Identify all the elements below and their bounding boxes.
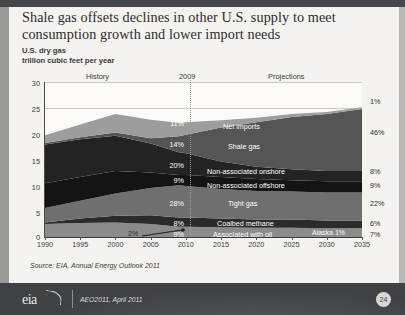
y-tick-10: 10 (18, 183, 40, 192)
x-tick-label-2035: 2035 (345, 240, 379, 249)
share-2009-non-associated-onshore: 20% (158, 161, 184, 170)
footer-separator (72, 290, 73, 308)
share-2035-non-associated-offshore: 9% (370, 181, 396, 190)
series-label-shale-gas: Shale gas (228, 142, 260, 151)
scan-right-edge (399, 7, 405, 283)
series-label-tight-gas: Tight gas (228, 199, 257, 208)
x-tick-label-2015: 2015 (204, 240, 238, 249)
projections-region-label: Projections (268, 72, 305, 81)
share-2035-associated-with-oil: 7% (370, 230, 396, 239)
stacked-area-svg (45, 82, 362, 237)
scan-top-edge (0, 0, 405, 7)
eia-logo-text: eia (22, 292, 37, 307)
share-2009-non-associated-offshore: 9% (158, 176, 184, 185)
x-tick-label-2010: 2010 (169, 240, 203, 249)
share-2009-coalbed-methane: 8% (158, 219, 184, 228)
series-label-net-imports: Net imports (223, 122, 260, 131)
chart-subtitle: U.S. dry gas (22, 46, 66, 55)
share-2009-net-imports: 11% (158, 119, 184, 128)
x-tick-label-2005: 2005 (134, 240, 168, 249)
history-projection-divider (190, 74, 191, 237)
share-2009-shale-gas: 14% (158, 140, 184, 149)
x-axis-line (44, 237, 362, 238)
annotation-alaska-2009: 2% (128, 230, 138, 237)
share-2035-tight-gas: 22% (370, 199, 396, 208)
x-tick-label-2025: 2025 (275, 240, 309, 249)
slide-number-badge: 24 (376, 292, 391, 307)
share-2035-non-associated-onshore: 8% (370, 167, 396, 176)
share-2035-coalbed-methane: 6% (370, 219, 396, 228)
annotation-leader-line (140, 228, 188, 238)
chart-plot-area (45, 82, 362, 237)
y-tick-20: 20 (18, 131, 40, 140)
series-label-associated-with-oil: Associated with oil (213, 230, 272, 239)
series-label-non-associated-offshore: Non-associated offshore (207, 181, 285, 190)
y-tick-30: 30 (18, 79, 40, 88)
footer-note: AEO2011, April 2011 (80, 296, 143, 303)
source-note: Source: EIA, Annual Energy Outlook 2011 (30, 262, 160, 269)
eia-logo: eia (22, 292, 66, 308)
x-tick-label-2030: 2030 (310, 240, 344, 249)
share-2009-tight-gas: 28% (158, 199, 184, 208)
page-title: Shale gas offsets declines in other U.S.… (22, 9, 362, 42)
series-label-non-associated-onshore: Non-associated onshore (207, 167, 285, 176)
annotation-alaska-2035: Alaska 1% (312, 229, 345, 236)
y-axis-line (44, 82, 45, 238)
divider-year-label: 2009 (179, 72, 195, 81)
y-tick-25: 25 (18, 105, 40, 114)
x-tick-label-2020: 2020 (239, 240, 273, 249)
y-tick-15: 15 (18, 157, 40, 166)
history-region-label: History (86, 72, 109, 81)
slide: Shale gas offsets declines in other U.S.… (0, 0, 405, 315)
eia-logo-swoosh-icon (44, 290, 63, 305)
x-tick-label-2000: 2000 (98, 240, 132, 249)
chart-units-label: trillion cubic feet per year (22, 56, 114, 65)
scan-left-edge (0, 7, 9, 283)
y-tick-5: 5 (18, 209, 40, 218)
x-tick-label-1995: 1995 (63, 240, 97, 249)
x-tick-label-1990: 1990 (28, 240, 62, 249)
series-label-coalbed-methane: Coalbed methane (217, 219, 274, 228)
share-2035-shale-gas: 46% (370, 128, 396, 137)
share-2035-net-imports: 1% (370, 97, 396, 106)
